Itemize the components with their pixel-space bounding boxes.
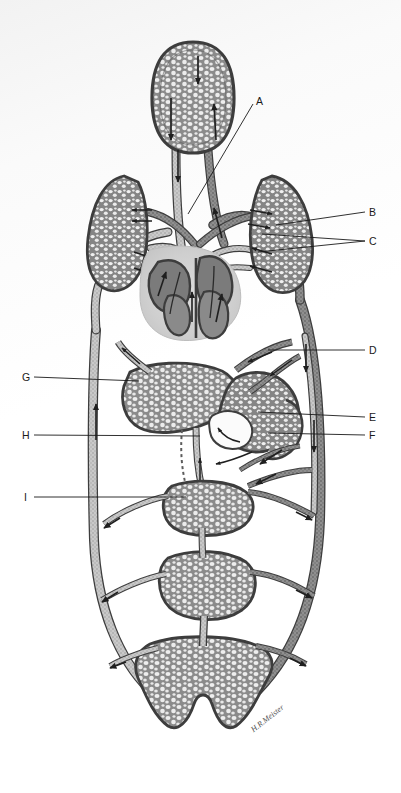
label-I: I <box>24 492 27 503</box>
heart <box>140 246 241 341</box>
label-H: H <box>22 430 30 441</box>
upper-gut-capillary-bed <box>163 481 253 535</box>
label-A: A <box>256 96 263 107</box>
label-E: E <box>369 412 376 423</box>
label-G: G <box>22 372 30 383</box>
circulatory-system-diagram <box>0 0 401 793</box>
label-C: C <box>369 236 377 247</box>
label-D: D <box>369 345 377 356</box>
right-lung <box>250 176 312 293</box>
figure-canvas: A B C D E F G H I H.R.Meister <box>0 0 401 793</box>
label-B: B <box>369 207 376 218</box>
head-capillary-bed <box>152 42 234 153</box>
mid-gut-capillary-bed <box>159 552 255 620</box>
label-F: F <box>369 430 376 441</box>
leader-G <box>34 377 139 381</box>
left-lung <box>87 176 147 291</box>
leader-H <box>34 435 200 436</box>
